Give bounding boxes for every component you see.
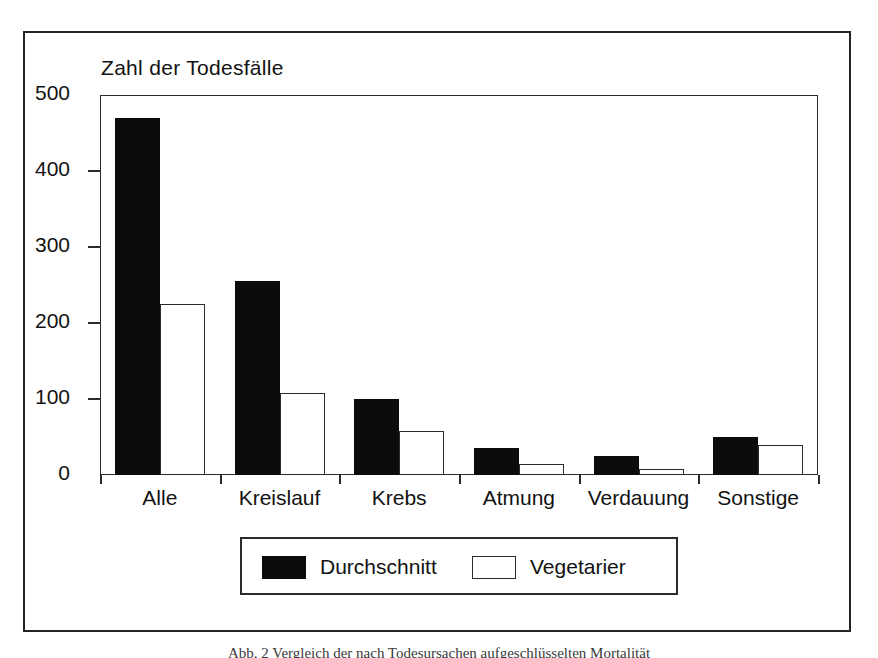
y-axis-tick-mark [88, 170, 100, 172]
bar-kreislauf-vegetarier [280, 393, 325, 475]
plot-area [100, 95, 818, 475]
filled-black-swatch [262, 556, 306, 579]
y-axis-tick-label: 500 [35, 81, 70, 105]
x-axis-label-sonstige: Sonstige [698, 486, 818, 510]
figure-caption: Abb. 2 Vergleich der nach Todesursachen … [0, 645, 878, 658]
x-axis-label-atmung: Atmung [459, 486, 579, 510]
y-axis-tick-mark [88, 398, 100, 400]
y-axis-tick-label: 100 [35, 385, 70, 409]
y-axis-tick-label: 200 [35, 309, 70, 333]
x-axis-label-kreislauf: Kreislauf [220, 486, 340, 510]
x-axis-tick [698, 475, 700, 484]
x-axis-tick [579, 475, 581, 484]
legend-label: Durchschnitt [320, 555, 437, 579]
y-axis-tick-label: 400 [35, 157, 70, 181]
bar-atmung-vegetarier [519, 464, 564, 475]
x-axis-tick [100, 475, 102, 484]
outlined-white-swatch [472, 556, 516, 579]
legend-item-vegetarier: Vegetarier [472, 553, 626, 581]
bar-alle-durchschnitt [115, 118, 160, 475]
x-axis-label-verdauung: Verdauung [579, 486, 699, 510]
bar-kreislauf-durchschnitt [235, 281, 280, 475]
y-axis-tick-mark [88, 246, 100, 248]
x-axis-tick [459, 475, 461, 484]
bar-atmung-durchschnitt [474, 448, 519, 475]
chart-legend: DurchschnittVegetarier [240, 537, 678, 595]
x-axis-label-krebs: Krebs [339, 486, 459, 510]
legend-label: Vegetarier [530, 555, 626, 579]
x-axis-tick [339, 475, 341, 484]
bar-verdauung-durchschnitt [594, 456, 639, 475]
x-axis-tick [818, 475, 820, 484]
y-axis-tick-mark [88, 322, 100, 324]
figure-page: Zahl der Todesfälle 5004003002001000 All… [0, 0, 878, 658]
x-axis-tick [220, 475, 222, 484]
bar-sonstige-durchschnitt [713, 437, 758, 475]
x-axis-label-alle: Alle [100, 486, 220, 510]
y-axis-tick-label: 300 [35, 233, 70, 257]
legend-item-durchschnitt: Durchschnitt [262, 553, 437, 581]
bar-krebs-durchschnitt [354, 399, 399, 475]
bar-krebs-vegetarier [399, 431, 444, 475]
chart-title: Zahl der Todesfälle [101, 56, 284, 80]
y-axis-tick-label: 0 [58, 461, 70, 485]
bar-alle-vegetarier [160, 304, 205, 475]
bar-sonstige-vegetarier [758, 445, 803, 475]
bar-verdauung-vegetarier [639, 469, 684, 475]
